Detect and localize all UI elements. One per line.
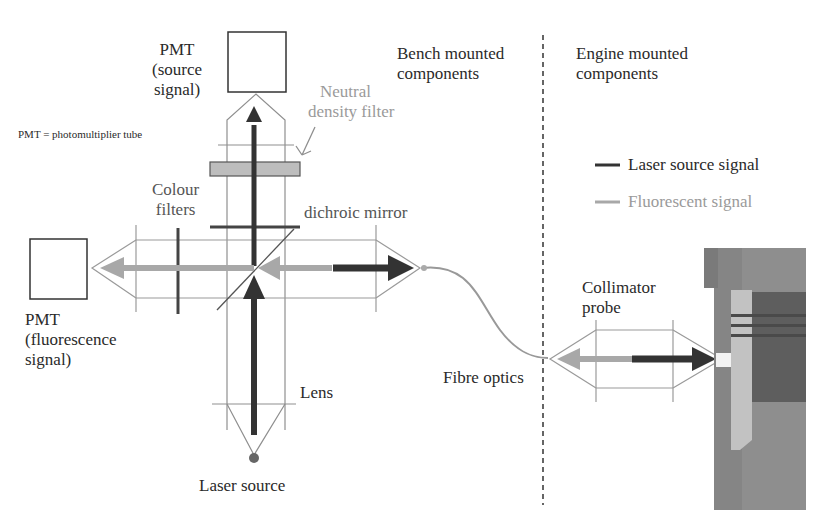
- fibre-optics-label: Fibre optics: [443, 368, 524, 388]
- fluorescent-arrowhead-return: [258, 256, 280, 280]
- probe-laser-arrowhead: [692, 347, 716, 371]
- engine-cross-section: [704, 248, 806, 510]
- pmt-fluorescence-box: [30, 239, 87, 299]
- legend-fluorescent-label: Fluorescent signal: [628, 192, 752, 212]
- pmt-source-line1: PMT: [152, 40, 202, 60]
- colour-filters-line2: filters: [152, 200, 199, 220]
- engine-region-label: Engine mounted components: [576, 44, 688, 84]
- laser-source-label: Laser source: [199, 476, 285, 496]
- collimator-line1: Collimator: [582, 278, 656, 298]
- dichroic-mirror-label: dichroic mirror: [304, 203, 407, 223]
- laser-arrowhead-up-upper: [246, 106, 262, 122]
- laser-source-dot: [249, 453, 259, 463]
- bench-line2: components: [397, 64, 504, 84]
- fibre-connector: [421, 265, 427, 271]
- neutral-density-filter-label: Neutral density filter: [308, 82, 394, 122]
- engine-line1: Engine mounted: [576, 44, 688, 64]
- pmt-source-line2: (source: [152, 60, 202, 80]
- pmt-fluorescence-line2: (fluorescence: [25, 330, 117, 350]
- colour-filters-line1: Colour: [152, 180, 199, 200]
- pmt-fluorescence-label: PMT (fluorescence signal): [25, 310, 117, 370]
- nd-filter-pointer: [296, 127, 315, 155]
- pmt-source-box: [228, 32, 286, 92]
- legend-laser-label: Laser source signal: [628, 155, 759, 175]
- optical-diagram: PMT (source signal) PMT = photomultiplie…: [0, 0, 819, 519]
- pmt-fluorescence-line1: PMT: [25, 310, 117, 330]
- colour-filters-label: Colour filters: [152, 180, 199, 220]
- pmt-fluorescence-line3: signal): [25, 350, 117, 370]
- engine-line2: components: [576, 64, 688, 84]
- pmt-definition: PMT = photomultiplier tube: [18, 128, 142, 141]
- bench-line1: Bench mounted: [397, 44, 504, 64]
- nd-line1: Neutral: [308, 82, 394, 102]
- probe-fluorescent-arrowhead: [557, 348, 580, 370]
- bench-region-label: Bench mounted components: [397, 44, 504, 84]
- fibre-optic-cable: [421, 267, 548, 358]
- laser-arrowhead-right: [388, 255, 414, 281]
- pmt-source-label: PMT (source signal): [152, 40, 202, 100]
- collimator-line2: probe: [582, 298, 656, 318]
- pmt-source-line3: signal): [152, 80, 202, 100]
- lens-label: Lens: [300, 383, 333, 403]
- collimator-probe-label: Collimator probe: [582, 278, 656, 318]
- nd-line2: density filter: [308, 102, 394, 122]
